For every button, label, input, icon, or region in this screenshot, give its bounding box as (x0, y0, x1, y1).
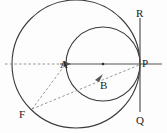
label-point-q: Q (136, 114, 144, 126)
label-point-a: A (60, 58, 68, 70)
label-point-b: B (100, 79, 107, 91)
geometry-diagram-canvas: A B P Q R F (0, 0, 167, 133)
dashed-segment-f-to-a (32, 65, 65, 109)
label-point-p: P (142, 57, 148, 69)
label-point-r: R (136, 7, 144, 19)
center-dot-b (102, 63, 105, 66)
dashed-segment-f-to-p (32, 65, 139, 109)
geometry-figure: A B P Q R F (0, 0, 167, 133)
label-point-f: F (19, 108, 25, 120)
